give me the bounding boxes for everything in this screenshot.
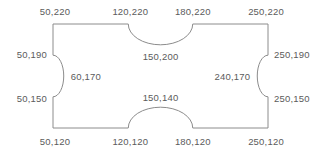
coordinate-label-bottom-left-corner: 50,120: [40, 136, 70, 147]
coordinate-label-left-notch-apex: 60,170: [71, 71, 101, 82]
coordinate-label-bottom-notch-apex: 150,140: [143, 92, 179, 103]
coordinate-label-bottom-notch-end: 180,120: [175, 136, 211, 147]
coordinate-label-top-left-corner: 50,220: [40, 6, 70, 17]
coordinate-label-left-notch-end: 50,150: [17, 92, 47, 103]
outline-shape-svg: [0, 0, 321, 153]
coordinate-label-right-notch-start: 250,190: [274, 49, 310, 60]
coordinate-outline-diagram: 50,220120,220180,220250,22050,190250,190…: [0, 0, 321, 153]
coordinate-label-top-right-corner: 250,220: [248, 6, 284, 17]
coordinate-label-top-notch-apex: 150,200: [143, 50, 179, 61]
coordinate-label-top-notch-end: 180,220: [175, 6, 211, 17]
coordinate-label-right-notch-apex: 240,170: [215, 71, 251, 82]
coordinate-label-bottom-notch-start: 120,120: [112, 136, 148, 147]
coordinate-label-left-notch-start: 50,190: [17, 49, 47, 60]
coordinate-label-bottom-right-corner: 250,120: [248, 136, 284, 147]
coordinate-label-right-notch-end: 250,150: [274, 92, 310, 103]
coordinate-label-top-notch-start: 120,220: [112, 6, 148, 17]
